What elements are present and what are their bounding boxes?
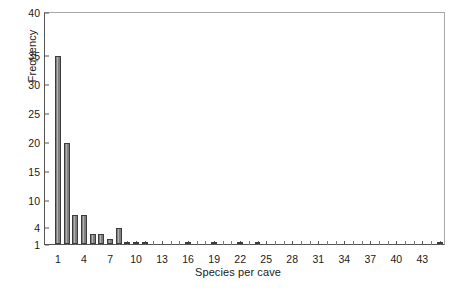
x-tick-mark-minor xyxy=(431,241,432,245)
bar xyxy=(133,242,139,244)
y-tick-mark xyxy=(45,245,49,246)
x-tick-mark-minor xyxy=(353,241,354,245)
y-tick-mark xyxy=(45,228,49,229)
bar xyxy=(90,234,96,244)
x-tick-label: 40 xyxy=(390,253,402,265)
y-tick-mark xyxy=(45,114,49,115)
x-tick-mark-minor xyxy=(388,241,389,245)
y-tick-mark xyxy=(45,13,49,14)
x-tick-label: 10 xyxy=(130,253,142,265)
plot-area: 1410152025303540 14710131619222528313437… xyxy=(44,12,445,245)
y-tick-mark xyxy=(45,172,49,173)
x-tick-mark xyxy=(318,241,319,245)
histogram-figure: Frequency 1410152025303540 1471013161922… xyxy=(0,0,452,288)
x-tick-mark-minor xyxy=(310,241,311,245)
x-tick-label: 22 xyxy=(234,253,246,265)
bar xyxy=(81,215,87,245)
x-tick-mark xyxy=(266,241,267,245)
bar xyxy=(142,242,148,244)
y-tick-label: 15 xyxy=(0,166,40,178)
y-tick-label: 4 xyxy=(0,222,40,234)
x-tick-label: 37 xyxy=(364,253,376,265)
x-tick-label: 28 xyxy=(286,253,298,265)
x-tick-mark-minor xyxy=(275,241,276,245)
y-tick-label: 10 xyxy=(0,195,40,207)
x-tick-mark-minor xyxy=(327,241,328,245)
bar xyxy=(237,242,243,244)
x-tick-mark-minor xyxy=(362,241,363,245)
y-tick-label: 30 xyxy=(0,79,40,91)
x-tick-label: 7 xyxy=(107,253,113,265)
x-tick-label: 25 xyxy=(260,253,272,265)
bar xyxy=(185,242,191,244)
bar xyxy=(55,56,61,244)
x-tick-mark xyxy=(344,241,345,245)
x-tick-label: 34 xyxy=(338,253,350,265)
y-tick-label: 25 xyxy=(0,108,40,120)
bar xyxy=(116,228,122,244)
y-tick-label: 40 xyxy=(0,7,40,19)
x-tick-mark-minor xyxy=(405,241,406,245)
bar xyxy=(211,242,217,244)
y-tick-mark xyxy=(45,56,49,57)
x-axis-title: Species per cave xyxy=(36,266,440,278)
x-tick-mark-minor xyxy=(284,241,285,245)
x-tick-mark-minor xyxy=(336,241,337,245)
x-tick-mark-minor xyxy=(205,241,206,245)
x-tick-label: 19 xyxy=(208,253,220,265)
x-tick-mark-minor xyxy=(249,241,250,245)
x-tick-label: 1 xyxy=(55,253,61,265)
x-tick-mark-minor xyxy=(153,241,154,245)
x-tick-mark xyxy=(292,241,293,245)
bar xyxy=(107,239,113,244)
x-tick-mark xyxy=(162,241,163,245)
y-tick-mark xyxy=(45,85,49,86)
x-tick-label: 43 xyxy=(416,253,428,265)
bar xyxy=(124,242,130,244)
y-tick-mark xyxy=(45,143,49,144)
bar xyxy=(255,242,261,244)
bar xyxy=(437,242,443,244)
x-tick-label: 13 xyxy=(156,253,168,265)
x-tick-mark-minor xyxy=(223,241,224,245)
x-tick-mark xyxy=(422,241,423,245)
bar xyxy=(98,234,104,244)
x-tick-mark xyxy=(370,241,371,245)
x-tick-mark-minor xyxy=(301,241,302,245)
x-tick-mark xyxy=(396,241,397,245)
y-tick-mark xyxy=(45,201,49,202)
x-tick-mark-minor xyxy=(179,241,180,245)
y-tick-label: 1 xyxy=(0,239,40,251)
bar xyxy=(72,215,78,245)
x-tick-label: 4 xyxy=(81,253,87,265)
x-tick-mark-minor xyxy=(197,241,198,245)
x-tick-mark-minor xyxy=(231,241,232,245)
x-tick-mark-minor xyxy=(414,241,415,245)
x-tick-mark-minor xyxy=(379,241,380,245)
x-tick-mark-minor xyxy=(171,241,172,245)
bar xyxy=(64,143,70,244)
x-tick-label: 16 xyxy=(182,253,194,265)
x-tick-label: 31 xyxy=(312,253,324,265)
y-tick-label: 20 xyxy=(0,137,40,149)
y-tick-label: 35 xyxy=(0,50,40,62)
